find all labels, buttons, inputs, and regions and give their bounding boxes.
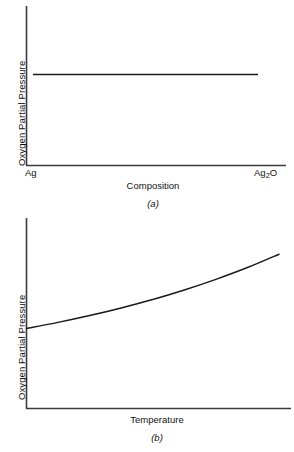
panel-caption-b: (b) bbox=[10, 433, 294, 443]
figure-panel-b: Oxygen Partial Pressure Temperature (b) bbox=[0, 212, 294, 452]
x-axis-tick-right-a: Ag2O bbox=[254, 168, 277, 179]
x-axis-title-a: Composition bbox=[6, 181, 294, 191]
y-axis-title-a: Oxygen Partial Pressure bbox=[17, 61, 27, 166]
figure-panel-a: Oxygen Partial Pressure Ag Ag2O Composit… bbox=[0, 0, 294, 226]
x-axis-tick-right-tail-a: O bbox=[270, 167, 277, 178]
y-axis-title-b: Oxygen Partial Pressure bbox=[17, 295, 27, 400]
x-axis-title-b: Temperature bbox=[10, 415, 294, 425]
plot-area-a bbox=[0, 0, 294, 226]
x-axis-tick-left-a: Ag bbox=[25, 168, 37, 178]
x-axis-tick-right-main-a: Ag bbox=[254, 167, 266, 178]
data-curve-pressure-vs-temperature bbox=[27, 254, 280, 328]
panel-caption-a: (a) bbox=[6, 199, 294, 209]
